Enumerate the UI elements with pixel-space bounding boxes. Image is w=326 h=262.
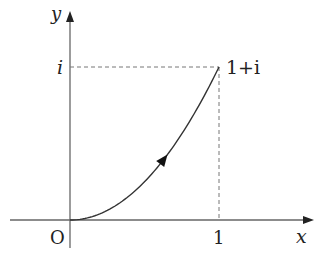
- diagram-canvas: y x O 1 i 1+i: [0, 0, 326, 262]
- y-axis-label: y: [50, 3, 62, 24]
- y-tick-label: i: [57, 56, 63, 78]
- x-tick-label: 1: [213, 227, 224, 248]
- path-curve: [70, 67, 219, 220]
- y-axis-arrow-icon: [66, 11, 74, 22]
- endpoint-label: 1+i: [226, 56, 260, 78]
- direction-arrow-icon: [156, 155, 167, 168]
- x-axis-arrow-icon: [303, 216, 314, 224]
- complex-path-diagram: y x O 1 i 1+i: [0, 0, 326, 262]
- x-axis-label: x: [296, 225, 307, 247]
- origin-label: O: [50, 227, 65, 248]
